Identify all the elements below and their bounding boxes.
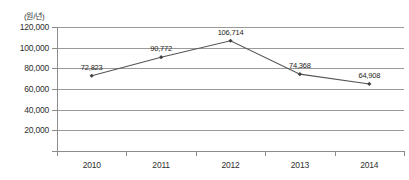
x-axis-tick-mark	[126, 151, 127, 156]
data-point-label: 72,823	[81, 63, 103, 72]
x-axis-tick-label: 2014	[360, 160, 378, 170]
y-axis-tick-label: 60,000	[24, 84, 49, 94]
y-axis-tick-label: 40,000	[24, 105, 49, 115]
x-axis-tick-mark	[57, 151, 58, 156]
x-axis-tick-mark	[196, 151, 197, 156]
y-axis-tick-mark	[52, 48, 57, 49]
data-point-label: 74,368	[289, 61, 311, 70]
y-axis-tick-label: 120,000	[20, 22, 49, 32]
y-axis-tick-mark	[52, 110, 57, 111]
plot-area	[57, 27, 404, 151]
line-chart: (원/년) 20,00040,00060,00080,000100,000120…	[0, 0, 409, 180]
x-axis-line	[57, 151, 404, 152]
gridline	[57, 130, 404, 131]
data-point-label: 64,908	[358, 71, 380, 80]
y-axis-tick-label: 20,000	[24, 125, 49, 135]
x-axis-tick-label: 2011	[152, 160, 169, 170]
x-axis-tick-mark	[335, 151, 336, 156]
y-axis-tick-mark	[52, 89, 57, 90]
x-axis-tick-label: 2013	[291, 160, 309, 170]
gridline	[57, 89, 404, 90]
x-axis-tick-label: 2010	[83, 160, 101, 170]
y-axis-tick-mark	[52, 130, 57, 131]
data-point-label: 106,714	[218, 28, 244, 37]
gridline	[57, 48, 404, 49]
y-axis-unit-label: (원/년)	[24, 10, 45, 21]
y-axis-tick-label: 80,000	[24, 63, 49, 73]
x-axis-tick-mark	[404, 151, 405, 156]
gridline	[57, 110, 404, 111]
y-axis-tick-label: 100,000	[20, 43, 49, 53]
data-point-label: 90,772	[150, 44, 172, 53]
x-axis-tick-label: 2012	[221, 160, 239, 170]
y-axis-line	[57, 27, 58, 152]
gridline	[57, 68, 404, 69]
x-axis-tick-mark	[265, 151, 266, 156]
y-axis-tick-mark	[52, 68, 57, 69]
y-axis-tick-mark	[52, 27, 57, 28]
